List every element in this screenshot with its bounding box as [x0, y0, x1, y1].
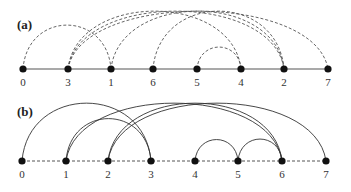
node-label: 0	[20, 76, 26, 88]
node-3	[147, 157, 154, 164]
node-label: 0	[19, 168, 25, 180]
node-label: 2	[105, 168, 111, 180]
node-5	[193, 65, 200, 72]
node-label: 3	[148, 168, 154, 180]
arc-diagram: (a) 03165427 (b) 01234567	[0, 0, 351, 192]
node-label: 6	[150, 76, 156, 88]
node-label: 5	[235, 168, 241, 180]
panel-a: (a) 03165427	[17, 11, 332, 88]
node-label: 6	[279, 168, 285, 180]
node-label: 1	[63, 168, 69, 180]
node-label: 7	[325, 76, 331, 88]
arc-1-2	[111, 11, 284, 69]
panel-a-arcs	[23, 11, 328, 69]
node-5	[234, 157, 241, 164]
panel-b-label: (b)	[17, 104, 33, 119]
arc-0-3	[22, 103, 151, 161]
node-label: 7	[323, 168, 329, 180]
node-6	[149, 65, 156, 72]
node-label: 4	[192, 168, 198, 180]
node-label: 4	[238, 76, 244, 88]
node-3	[64, 65, 71, 72]
node-0	[19, 65, 26, 72]
node-4	[191, 157, 198, 164]
arc-2-7	[108, 103, 326, 161]
node-7	[324, 65, 331, 72]
arc-1-6	[66, 103, 282, 161]
node-2	[104, 157, 111, 164]
node-1	[62, 157, 69, 164]
node-label: 3	[65, 76, 71, 88]
panel-b-arcs	[22, 103, 326, 161]
arc-3-7	[68, 11, 328, 69]
node-1	[107, 65, 114, 72]
node-label: 1	[108, 76, 114, 88]
panel-a-label: (a)	[17, 17, 32, 32]
node-2	[280, 65, 287, 72]
arc-3-4	[68, 11, 241, 69]
node-6	[278, 157, 285, 164]
node-4	[237, 65, 244, 72]
node-0	[18, 157, 25, 164]
panel-b: (b) 01234567	[17, 103, 330, 180]
arc-4-5	[195, 140, 238, 161]
node-label: 2	[281, 76, 287, 88]
node-label: 5	[194, 76, 200, 88]
node-7	[322, 157, 329, 164]
arc-6-2	[153, 11, 284, 69]
arc-2-6	[108, 103, 282, 161]
arc-1-3	[66, 119, 151, 161]
arc-5-4	[197, 47, 241, 69]
arc-0-1	[23, 25, 111, 69]
